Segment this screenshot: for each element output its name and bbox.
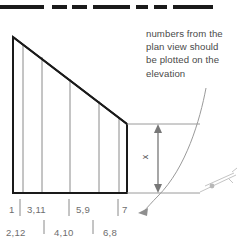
axis-label-lower-2: 4,10 [54,227,73,238]
dimension-extension-lines [127,124,200,193]
axis-label-upper-3: 5,9 [76,204,90,215]
axis-label-upper-1: 1 [9,204,15,215]
axis-label-upper-2: 3,11 [27,204,46,215]
callout-leader-arrow [138,88,206,216]
figure-canvas: numbers from the plan view should be plo… [0,0,242,249]
height-dimension-arrow [154,124,162,193]
annotation-note: numbers from the plan view should be plo… [146,27,242,80]
elevation-division-lines [23,45,119,193]
top-dashed-rule [0,5,213,9]
corner-crop-mark [200,168,237,192]
axis-label-lower-1: 2,12 [6,227,25,238]
axis-label-lower-3: 6,8 [103,227,117,238]
axis-label-upper-4: 7 [122,204,128,215]
dimension-label-x: x [140,155,150,160]
